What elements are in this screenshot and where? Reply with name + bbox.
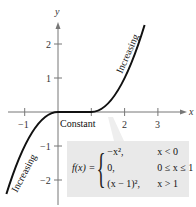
case-expr: 0, bbox=[107, 160, 157, 175]
case-expr: (x − 1)², bbox=[107, 176, 157, 191]
y-axis-arrow-icon bbox=[56, 22, 61, 29]
increasing-label-right: Increasing bbox=[114, 32, 141, 75]
y-tick-label: −1 bbox=[40, 141, 51, 152]
y-tick-label: 2 bbox=[46, 39, 51, 50]
y-tick-label: −2 bbox=[40, 175, 51, 186]
x-axis-label: x bbox=[188, 106, 194, 117]
case-cond: x > 1 bbox=[157, 176, 196, 191]
y-tick-label: 1 bbox=[46, 73, 51, 84]
x-axis-arrow-icon bbox=[180, 110, 187, 115]
x-tick-label: 3 bbox=[155, 119, 160, 130]
formula-lhs: f(x) = bbox=[72, 162, 95, 173]
brace-icon: { bbox=[97, 147, 106, 189]
constant-label: Constant bbox=[60, 118, 96, 129]
x-tick-label: −1 bbox=[18, 119, 29, 130]
case-cond: 0 ≤ x ≤ 1 bbox=[157, 160, 196, 175]
case-cond: x < 0 bbox=[157, 144, 196, 159]
piecewise-formula: f(x) = { −x², x < 0 0, 0 ≤ x ≤ 1 (x − 1)… bbox=[72, 144, 196, 191]
y-axis-label: y bbox=[54, 6, 60, 17]
case-expr: −x², bbox=[107, 144, 157, 159]
x-tick-label: 2 bbox=[122, 119, 127, 130]
formula-cases: −x², x < 0 0, 0 ≤ x ≤ 1 (x − 1)², x > 1 bbox=[107, 144, 196, 191]
